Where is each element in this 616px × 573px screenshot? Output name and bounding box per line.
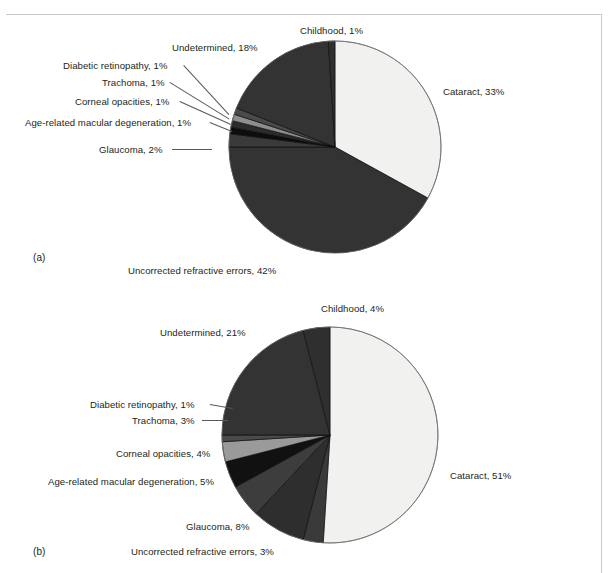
pie-label-glaucoma: Glaucoma, 2% — [99, 144, 163, 155]
pie-label-diabetic: Diabetic retinopathy, 1% — [90, 399, 194, 410]
panel-a-tag: (a) — [33, 252, 46, 263]
panel-a: Cataract, 33%Uncorrected refractive erro… — [0, 14, 616, 297]
pie-label-glaucoma: Glaucoma, 8% — [186, 521, 250, 532]
pie-label-childhood: Childhood, 4% — [321, 303, 384, 314]
figure-page: Cataract, 33%Uncorrected refractive erro… — [0, 0, 616, 573]
leader-line-glaucoma — [172, 149, 212, 150]
pie-label-cataract: Cataract, 33% — [443, 86, 504, 97]
pie-label-corneal: Corneal opacities, 4% — [116, 448, 210, 459]
pie-chart-b — [0, 297, 616, 553]
pie-label-amd: Age-related macular degeneration, 1% — [25, 117, 191, 128]
panel-b: Cataract, 51%Uncorrected refractive erro… — [0, 297, 616, 573]
panel-b-tag: (b) — [33, 546, 46, 557]
pie-label-corneal: Corneal opacities, 1% — [75, 96, 169, 107]
pie-svg — [0, 297, 616, 573]
pie-label-undetermined: Undetermined, 18% — [172, 42, 258, 53]
pie-label-uncorrected: Uncorrected refractive errors, 42% — [128, 265, 276, 276]
pie-svg — [0, 14, 616, 286]
pie-slice-cataract — [323, 327, 438, 543]
pie-label-trachoma: Trachoma, 3% — [132, 415, 195, 426]
pie-label-cataract: Cataract, 51% — [450, 470, 511, 481]
pie-label-uncorrected: Uncorrected refractive errors, 3% — [131, 546, 274, 557]
pie-label-undetermined: Undetermined, 21% — [160, 327, 246, 338]
leader-line-trachoma — [202, 420, 228, 421]
pie-label-diabetic: Diabetic retinopathy, 1% — [63, 60, 167, 71]
pie-label-trachoma: Trachoma, 1% — [102, 77, 165, 88]
pie-chart-a — [0, 14, 616, 266]
pie-label-childhood: Childhood, 1% — [300, 25, 363, 36]
pie-label-amd: Age-related macular degeneration, 5% — [48, 476, 214, 487]
